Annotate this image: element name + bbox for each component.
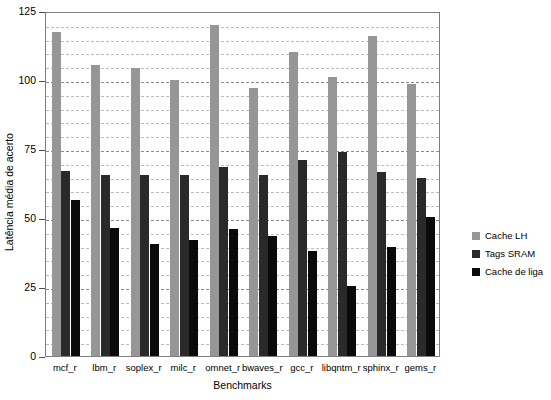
- y-axis-tick: [39, 357, 45, 358]
- y-axis-tick-label: 25: [2, 282, 36, 293]
- bar-group: [91, 13, 119, 356]
- bar: [110, 228, 119, 356]
- bar: [180, 175, 189, 356]
- legend-swatch-icon: [472, 268, 480, 276]
- bar: [52, 32, 61, 356]
- y-axis-tick-label: 75: [2, 144, 36, 155]
- bar-group: [131, 13, 159, 356]
- legend-swatch-icon: [472, 250, 480, 258]
- bar: [289, 52, 298, 356]
- bar: [150, 244, 159, 356]
- legend-item[interactable]: Tags SRAM: [472, 246, 551, 261]
- bar: [131, 68, 140, 356]
- bar: [140, 175, 149, 356]
- bar: [368, 36, 377, 356]
- bar-series-layer: [46, 13, 439, 356]
- bar-group: [52, 13, 80, 356]
- bar: [61, 171, 70, 356]
- legend-item-label: Cache LH: [485, 230, 527, 241]
- bar-group: [249, 13, 277, 356]
- legend: Cache LHTags SRAMCache de liga: [472, 228, 551, 282]
- bar: [417, 178, 426, 356]
- bar: [308, 251, 317, 356]
- bar: [210, 25, 219, 356]
- bar: [338, 152, 347, 356]
- legend-item-label: Cache de liga: [485, 266, 543, 277]
- y-axis-tick-label: 100: [2, 75, 36, 86]
- bar: [347, 286, 356, 356]
- bar: [377, 172, 386, 356]
- bar: [219, 167, 228, 356]
- plot-area: [45, 12, 440, 357]
- bar: [249, 88, 258, 356]
- bar: [387, 247, 396, 356]
- x-axis-tick-label: gems_r: [390, 362, 450, 373]
- legend-item[interactable]: Cache de liga: [472, 264, 551, 279]
- bar-group: [407, 13, 435, 356]
- bar: [229, 229, 238, 356]
- y-axis-tick-label: 125: [2, 6, 36, 17]
- bar: [407, 84, 416, 356]
- bar: [259, 175, 268, 356]
- bar: [426, 217, 435, 356]
- bar-group: [170, 13, 198, 356]
- bar: [298, 160, 307, 356]
- bar: [328, 77, 337, 356]
- y-axis-title: Latência média de acerto: [1, 20, 17, 365]
- bar-group: [328, 13, 356, 356]
- bar: [71, 200, 80, 356]
- bar-group: [210, 13, 238, 356]
- legend-item-label: Tags SRAM: [485, 248, 535, 259]
- bar: [268, 236, 277, 356]
- legend-swatch-icon: [472, 232, 480, 240]
- bar: [101, 175, 110, 356]
- bar: [91, 65, 100, 356]
- bar-group: [289, 13, 317, 356]
- x-axis-title: Benchmarks: [45, 379, 440, 391]
- bar: [170, 80, 179, 356]
- chart-root: Latência média de acerto 0255075100125 m…: [0, 0, 551, 400]
- legend-item[interactable]: Cache LH: [472, 228, 551, 243]
- bar-group: [368, 13, 396, 356]
- bar: [189, 240, 198, 356]
- y-axis-tick-label: 0: [2, 351, 36, 362]
- y-axis-tick-label: 50: [2, 213, 36, 224]
